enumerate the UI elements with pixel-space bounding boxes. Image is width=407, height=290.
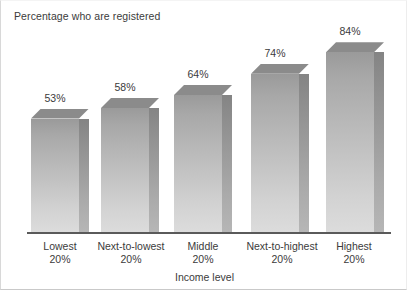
x-tick-line-1: Next-to-lowest [84,240,178,253]
bar-top-face [101,98,159,108]
chart-container: Percentage who are registered 53% 58% 64… [0,0,407,290]
x-axis-line [27,232,391,234]
x-tick-label-next-to-highest: Next-to-highest 20% [233,240,331,266]
x-tick-line-2: 20% [168,253,238,266]
bar-middle: 64% [174,95,232,232]
bar-top-face [251,64,309,74]
x-tick-line-1: Next-to-highest [233,240,331,253]
bar-value-label: 53% [31,92,79,104]
x-axis-title: Income level [1,271,407,283]
bar-front-face [251,74,299,232]
bar-value-label: 84% [326,25,374,37]
x-tick-line-1: Highest [319,240,389,253]
x-tick-line-2: 20% [319,253,389,266]
x-tick-line-2: 20% [84,253,178,266]
bar-next-to-highest: 74% [251,74,309,232]
bar-side-face [79,119,89,232]
bar-side-face [222,95,232,232]
x-tick-line-2: 20% [233,253,331,266]
bar-side-face [299,74,309,232]
bar-side-face [374,52,384,232]
bar-value-label: 74% [251,47,299,59]
bar-value-label: 58% [101,81,149,93]
bar-front-face [326,52,374,232]
bar-front-face [31,119,79,232]
bar-highest: 84% [326,52,384,232]
x-tick-label-next-to-lowest: Next-to-lowest 20% [84,240,178,266]
bar-top-face [174,85,232,95]
bar-front-face [174,95,222,232]
bar-side-face [149,108,159,232]
bar-next-to-lowest: 58% [101,108,159,232]
x-tick-label-highest: Highest 20% [319,240,389,266]
bar-top-face [31,109,89,119]
bar-top-face [326,42,384,52]
bar-value-label: 64% [174,68,222,80]
x-tick-line-1: Middle [168,240,238,253]
x-tick-label-middle: Middle 20% [168,240,238,266]
bar-lowest: 53% [31,119,89,232]
bar-front-face [101,108,149,232]
plot-area: 53% 58% 64% 74% 84% [1,1,407,290]
